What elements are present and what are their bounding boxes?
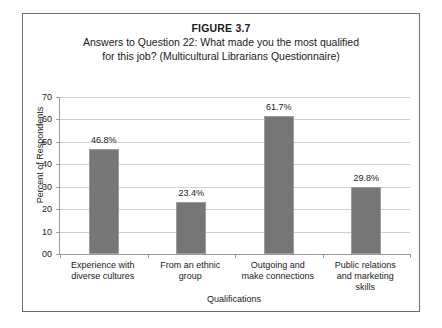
x-axis-tick-mark — [235, 254, 236, 258]
bar-value-label: 23.4% — [161, 188, 221, 198]
x-axis-category-label: Experience withdiverse cultures — [60, 260, 146, 282]
y-axis-tick-mark — [56, 164, 60, 165]
x-axis-category-label-line: Outgoing and — [235, 260, 321, 271]
y-axis-tick-label: 20 — [42, 205, 52, 214]
x-axis-tick-mark — [323, 254, 324, 258]
x-axis-category-label-line: diverse cultures — [60, 271, 146, 282]
y-axis-tick-mark — [56, 209, 60, 210]
x-axis-category-label-line: skills — [322, 282, 408, 293]
bar-chart: Percent of Respondents 00102030405060704… — [23, 70, 421, 312]
bar — [176, 202, 206, 254]
plot-area: 001020304050607046.8%23.4%61.7%29.8% — [59, 97, 410, 255]
x-axis-title: Qualifications — [59, 294, 409, 304]
y-axis-tick-label: 50 — [42, 137, 52, 146]
x-axis-category-label-line: Public relations — [322, 260, 408, 271]
x-axis-category-label: Public relationsand marketingskills — [322, 260, 408, 293]
y-axis-tick-mark — [56, 97, 60, 98]
bar-value-label: 46.8% — [74, 135, 134, 145]
x-axis-category-label-line: group — [147, 271, 233, 282]
figure-caption-line-1: Answers to Question 22: What made you th… — [23, 35, 419, 49]
y-axis-tick-label: 60 — [42, 115, 52, 124]
y-axis-tick-label: 10 — [42, 227, 52, 236]
y-axis-tick-mark — [56, 119, 60, 120]
x-axis-category-label: From an ethnicgroup — [147, 260, 233, 282]
x-axis-category-label: Outgoing andmake connections — [235, 260, 321, 282]
y-axis-tick-mark — [56, 187, 60, 188]
figure-caption-line-2: for this job? (Multicultural Librarians … — [23, 49, 419, 63]
x-axis-tick-mark — [148, 254, 149, 258]
bar — [264, 116, 294, 254]
gridline — [60, 119, 410, 120]
y-axis-title: Percent of Respondents — [35, 90, 45, 220]
x-axis-tick-mark — [60, 254, 61, 258]
x-axis-tick-mark — [410, 254, 411, 258]
y-axis-tick-label: 70 — [42, 93, 52, 102]
bar — [351, 187, 381, 254]
y-axis-tick-mark — [56, 232, 60, 233]
figure-frame: FIGURE 3.7 Answers to Question 22: What … — [22, 13, 420, 312]
bar-value-label: 61.7% — [249, 102, 309, 112]
x-axis-category-label-line: Experience with — [60, 260, 146, 271]
bar — [89, 149, 119, 254]
figure-number: FIGURE 3.7 — [23, 21, 419, 35]
x-axis-category-label-line: make connections — [235, 271, 321, 282]
x-axis-category-label-line: From an ethnic — [147, 260, 233, 271]
bar-value-label: 29.8% — [336, 173, 396, 183]
y-axis-tick-label: 30 — [42, 182, 52, 191]
y-axis-tick-mark — [56, 142, 60, 143]
x-axis-category-label-line: and marketing — [322, 271, 408, 282]
y-axis-tick-label: 40 — [42, 160, 52, 169]
gridline — [60, 97, 410, 98]
y-axis-tick-label: 00 — [42, 250, 52, 259]
figure-title-block: FIGURE 3.7 Answers to Question 22: What … — [23, 21, 419, 63]
